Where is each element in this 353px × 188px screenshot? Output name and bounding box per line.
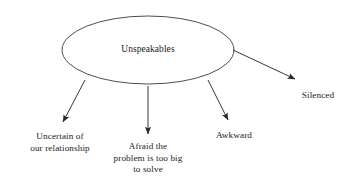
branch-label-afraid: Afraid the problem is too big to solve: [114, 141, 183, 176]
branch-label-silenced: Silenced: [302, 90, 334, 102]
central-node-label: Unspeakables: [121, 44, 174, 56]
arrow-to-uncertain: [63, 80, 85, 122]
arrow-to-awkward: [208, 80, 228, 120]
branch-label-uncertain: Uncertain of our relationship: [30, 131, 90, 154]
diagram-canvas: Unspeakables Uncertain of our relationsh…: [0, 0, 353, 188]
arrow-to-silenced: [233, 50, 295, 79]
branch-label-awkward: Awkward: [216, 130, 252, 142]
